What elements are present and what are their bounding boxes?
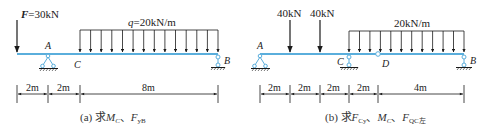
- caption-b: (b) 求FCy、MC、FQC左: [325, 111, 426, 125]
- point-label-a-c: C: [74, 59, 81, 70]
- support-b-roller-a: [211, 55, 225, 68]
- point-label-b-c: C: [337, 56, 344, 67]
- dist-load-label-a: q=20kN/m: [128, 16, 176, 28]
- support-b-a-pin: [251, 54, 270, 68]
- dim-b-5: 4m: [414, 82, 427, 93]
- point-label-a-b: B: [224, 55, 230, 66]
- force-label-f: F=30kN: [20, 8, 59, 20]
- point-label-a-a: A: [44, 40, 52, 51]
- dim-a-3: 8m: [142, 82, 155, 93]
- dim-a-2: 2m: [57, 82, 70, 93]
- dim-b-1: 2m: [268, 82, 281, 93]
- point-load-label-1: 40kN: [277, 7, 302, 19]
- distributed-load-a: [80, 30, 218, 52]
- dim-b-3: 2m: [327, 82, 340, 93]
- support-a-pin: [39, 54, 58, 68]
- beam-diagrams: q=20kN/m F=30kN A C: [0, 0, 490, 132]
- caption-a: (a) 求MC、FyB: [80, 111, 146, 125]
- dist-load-label-b: 20kN/m: [394, 17, 431, 29]
- point-label-b-a: A: [256, 40, 264, 51]
- distributed-load-b: [349, 31, 464, 52]
- dimension-line-a: [17, 85, 218, 103]
- hinge-d: [376, 52, 381, 57]
- point-label-b-d: D: [381, 58, 390, 69]
- diagram-a: q=20kN/m F=30kN A C: [17, 8, 230, 125]
- dim-b-2: 2m: [298, 82, 311, 93]
- point-label-b-b: B: [470, 55, 476, 66]
- dim-a-1: 2m: [26, 82, 39, 93]
- dim-b-4: 2m: [357, 82, 370, 93]
- diagram-b: 40kN 40kN 20kN/m D: [251, 7, 476, 125]
- point-load-label-2: 40kN: [310, 7, 335, 19]
